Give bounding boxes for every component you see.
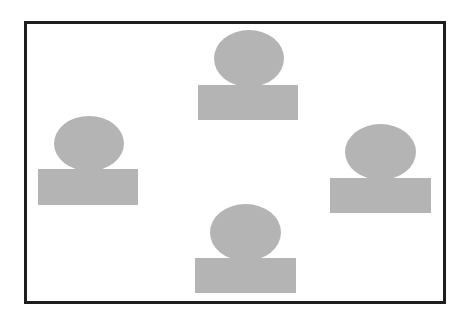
figure-right-rect — [330, 178, 431, 213]
figure-bottom-rect — [195, 258, 296, 293]
figure-top-ellipse — [214, 30, 284, 87]
figure-left-rect — [38, 169, 138, 205]
figure-top-rect — [198, 85, 298, 120]
figure-left-ellipse — [54, 116, 124, 171]
figure-bottom-ellipse — [210, 204, 281, 261]
figure-right-ellipse — [345, 124, 416, 180]
